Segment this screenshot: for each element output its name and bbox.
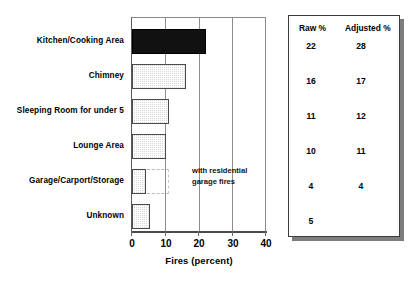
- bar-unknown: [132, 204, 150, 229]
- bar-sleeping-room-under-5: [132, 99, 169, 124]
- bar-chart-figure: Kitchen/Cooking Area Chimney Sleeping Ro…: [0, 0, 409, 292]
- x-tick-mark-30: [232, 231, 233, 236]
- x-tick-label-0: 0: [120, 238, 144, 249]
- table-cell-adjusted-3: 11: [346, 146, 376, 156]
- table-cell-raw-3: 10: [296, 146, 326, 156]
- annotation-line-2: garage fires: [192, 177, 247, 188]
- category-label-chimney: Chimney: [89, 71, 124, 81]
- values-table: Raw % Adjusted % 22 28 16 17 11 12 10 11…: [288, 15, 400, 237]
- bar-lounge-area: [132, 134, 166, 159]
- category-axis-labels: Kitchen/Cooking Area Chimney Sleeping Ro…: [0, 18, 128, 230]
- table-cell-raw-2: 11: [296, 111, 326, 121]
- table-cell-adjusted-2: 12: [346, 111, 376, 121]
- x-axis-line: [131, 231, 267, 233]
- category-label-sleeping-room-for-under-5: Sleeping Room for under 5: [17, 106, 124, 116]
- x-tick-mark-0: [131, 231, 132, 236]
- table-header-raw-percent: Raw %: [299, 23, 326, 33]
- table-cell-adjusted-1: 17: [346, 76, 376, 86]
- plot-area: [131, 17, 266, 231]
- x-tick-label-20: 20: [187, 238, 211, 249]
- bar-kitchen-cooking-area: [132, 29, 206, 54]
- x-tick-label-30: 30: [221, 238, 245, 249]
- category-label-garage-carport-storage: Garage/Carport/Storage: [29, 176, 124, 186]
- category-label-lounge-area: Lounge Area: [73, 141, 124, 151]
- x-tick-mark-20: [198, 231, 199, 236]
- x-tick-label-40: 40: [254, 238, 278, 249]
- table-cell-raw-4: 4: [296, 181, 326, 191]
- table-cell-raw-1: 16: [296, 76, 326, 86]
- annotation-line-1: with residential: [192, 166, 247, 177]
- table-cell-adjusted-0: 28: [346, 41, 376, 51]
- x-tick-label-10: 10: [154, 238, 178, 249]
- x-tick-mark-40: [265, 231, 266, 236]
- gridline-30: [232, 18, 233, 232]
- bar-garage-carport-storage: [132, 169, 146, 194]
- table-cell-raw-5: 5: [296, 216, 326, 226]
- category-label-kitchen-cooking-area: Kitchen/Cooking Area: [37, 36, 124, 46]
- annotation-connector: [147, 169, 169, 194]
- x-tick-mark-10: [165, 231, 166, 236]
- bar-chimney: [132, 64, 186, 89]
- category-label-unknown: Unknown: [86, 211, 124, 221]
- x-axis-title: Fires (percent): [131, 255, 267, 266]
- table-cell-raw-0: 22: [296, 41, 326, 51]
- table-cell-adjusted-4: 4: [346, 181, 376, 191]
- table-header-adjusted-percent: Adjusted %: [345, 23, 391, 33]
- annotation-residential-garage-fires: with residential garage fires: [192, 166, 247, 187]
